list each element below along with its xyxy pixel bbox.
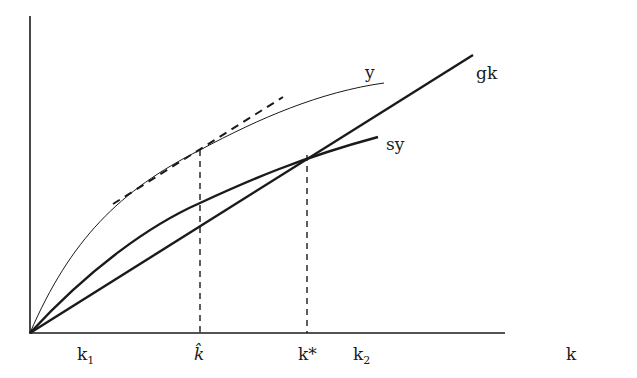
tick-k2: k2 [353,344,370,367]
tick-k-hat: k̂ [194,343,204,364]
curve-sy [30,137,378,333]
curve-y [30,83,384,333]
solow-diagram: y sy gk k1 k̂ k* k2 k [0,0,637,378]
x-axis-label: k [566,344,577,364]
tick-k1: k1 [77,344,94,367]
label-sy: sy [386,134,405,154]
label-gk: gk [476,63,498,83]
line-gk [30,55,473,333]
label-y: y [364,62,375,82]
tick-k-star: k* [298,344,317,364]
tangent-line [113,97,283,204]
